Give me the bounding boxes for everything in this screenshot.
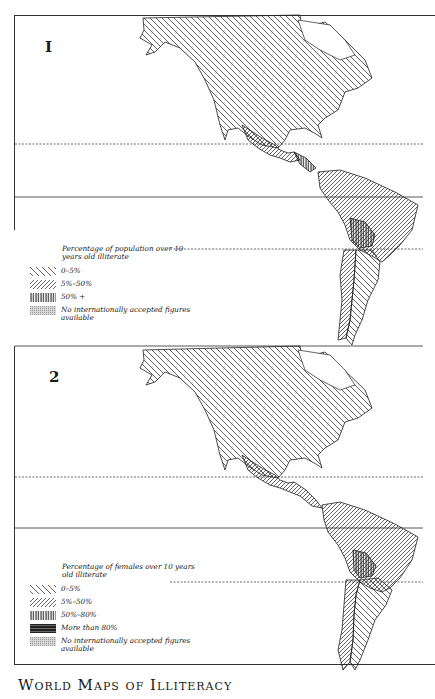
legend-item: 0–5% <box>14 585 202 594</box>
page-caption: World Maps of Illiteracy <box>18 676 232 694</box>
legend-title: Percentage of females over 10 years old … <box>62 563 202 579</box>
grid-dark-swatch-icon <box>30 624 56 633</box>
hatch-dense-slash-swatch-icon <box>30 598 56 607</box>
legend-2: Percentage of females over 10 years old … <box>14 563 202 657</box>
stipple-swatch-icon <box>30 637 56 646</box>
vertical-lines-swatch-icon <box>30 611 56 620</box>
legend-item: No internationally accepted figures avai… <box>14 637 202 653</box>
legend-item: More than 80% <box>14 624 202 633</box>
legend-item: 50%–80% <box>14 611 202 620</box>
legend-item: 5%–50% <box>14 598 202 607</box>
hatch-thin-backslash-swatch-icon <box>30 585 56 594</box>
